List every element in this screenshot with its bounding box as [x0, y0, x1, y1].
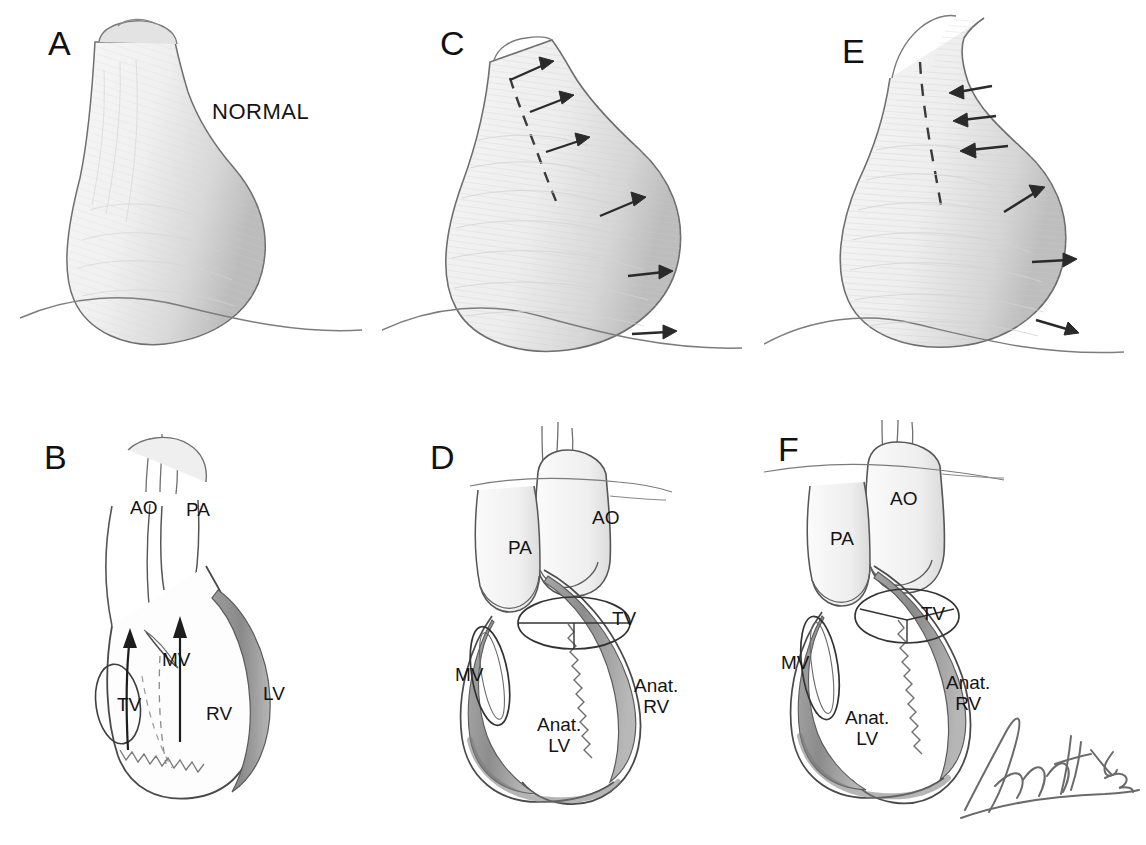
panel-letter-e: E: [842, 34, 865, 68]
label-d-anat-rv: Anat. RV: [634, 676, 678, 717]
label-d-anat-lv: Anat. LV: [537, 715, 581, 756]
rv-trabeculations: [898, 620, 922, 754]
label-f-tv: TV: [921, 604, 945, 625]
panel-e-drawing: [764, 0, 1146, 420]
panel-d-anatomy: [382, 420, 764, 845]
panel-a-silhouette: [0, 0, 382, 420]
ventricular-mass-outline: [107, 566, 256, 799]
label-b-ao: AO: [130, 498, 157, 519]
panel-c-silhouette: [382, 0, 764, 420]
label-normal: NORMAL: [212, 100, 309, 124]
panel-letter-f: F: [778, 432, 799, 466]
panel-d-drawing: [382, 420, 764, 845]
figure-canvas: A C E B D F NORMAL AO PA MV TV RV LV AO …: [0, 0, 1146, 845]
label-f-mv: MV: [781, 653, 810, 674]
great-vessel-top: [99, 21, 177, 44]
label-d-tv: TV: [612, 609, 636, 630]
panel-letter-b: B: [44, 440, 67, 474]
label-f-anat-rv: Anat. RV: [946, 673, 990, 714]
label-b-rv: RV: [206, 704, 232, 725]
anat-lv-myocardium: [468, 620, 536, 794]
arrow-out-3: [1036, 320, 1079, 335]
label-d-ao: AO: [592, 508, 619, 529]
label-f-ao: AO: [890, 489, 917, 510]
label-f-anat-lv: Anat. LV: [845, 708, 889, 749]
label-b-mv: MV: [162, 650, 191, 671]
label-d-mv: MV: [455, 665, 484, 686]
panel-letter-d: D: [430, 440, 455, 474]
label-b-tv: TV: [117, 695, 141, 716]
label-b-lv: LV: [263, 684, 285, 705]
label-f-pa: PA: [830, 529, 854, 550]
panel-letter-a: A: [48, 26, 71, 60]
pericardial-reflection-right: [610, 496, 666, 500]
heart-shading: [446, 40, 681, 351]
pulmonary-trunk-left: [161, 506, 164, 590]
arrow-6: [632, 325, 677, 339]
panel-b-drawing: [0, 420, 382, 845]
heart-shading: [840, 18, 1066, 347]
aortic-arch: [128, 437, 206, 482]
panel-e-silhouette: [764, 0, 1146, 420]
panel-c-drawing: [382, 0, 764, 420]
panel-a-drawing: [0, 0, 382, 420]
label-b-pa: PA: [186, 500, 210, 521]
panel-letter-c: C: [440, 26, 465, 60]
panel-b-anatomy: [0, 420, 382, 845]
label-d-pa: PA: [508, 538, 532, 559]
